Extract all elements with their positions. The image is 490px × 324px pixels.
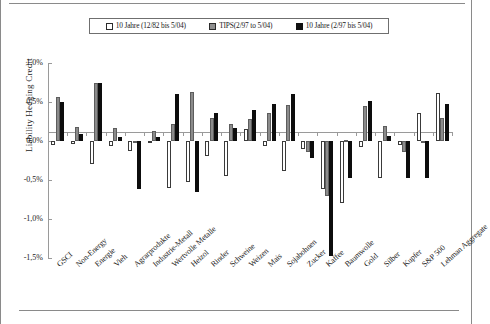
bar <box>291 94 295 141</box>
y-tick-text: 0,0% <box>1 137 48 145</box>
bar <box>378 141 382 178</box>
bar <box>252 110 256 141</box>
x-tick-mark <box>106 132 107 136</box>
bar-group <box>340 63 353 258</box>
y-tick-text: -1,0% <box>1 215 48 223</box>
bar <box>109 141 113 146</box>
legend-swatch-white <box>106 23 113 30</box>
bar <box>214 113 218 141</box>
legend-label: 10 Jahre (2/97 bis 5/04) <box>306 22 373 29</box>
y-tick-text: -1,5% <box>1 254 48 262</box>
x-tick-mark <box>317 132 318 136</box>
y-tick-label-4: -1,0% <box>1 215 48 223</box>
bar-group <box>71 63 84 258</box>
bar-group <box>282 63 295 258</box>
bar <box>98 83 102 142</box>
bar <box>348 141 352 178</box>
bar <box>406 141 410 178</box>
x-tick-mark <box>202 132 203 136</box>
x-tick-mark <box>67 132 68 136</box>
bar <box>368 101 372 141</box>
legend-label: TIPS(2/97 to 5/04) <box>219 22 272 29</box>
y-tick-label-1: 0,5% <box>1 98 48 106</box>
bar <box>71 141 75 144</box>
bar-group <box>90 63 103 258</box>
y-tick-text: 0,5% <box>1 98 48 106</box>
bar <box>79 134 83 141</box>
bar <box>272 104 276 141</box>
bar <box>186 141 190 182</box>
bar-group <box>244 63 257 258</box>
bar-group <box>167 63 180 258</box>
legend-item-0: 10 Jahre (12/82 bis 5/04) <box>106 22 186 29</box>
bar <box>156 137 160 141</box>
x-tick-mark <box>394 132 395 136</box>
bar-group <box>186 63 199 258</box>
x-tick-mark <box>163 132 164 136</box>
bar <box>60 102 64 141</box>
y-tick-text: 1,0% <box>1 59 48 67</box>
bar <box>282 141 286 171</box>
bar <box>118 137 122 141</box>
bar <box>175 94 179 141</box>
bottom-rule <box>19 310 459 311</box>
bar-group <box>301 63 314 258</box>
bar-group <box>128 63 141 258</box>
x-tick-mark <box>279 132 280 136</box>
legend-swatch-gray <box>209 23 216 30</box>
x-tick-mark <box>375 132 376 136</box>
bar <box>387 136 391 141</box>
bar-group <box>321 63 334 258</box>
x-tick-mark <box>452 132 453 136</box>
legend-label: 10 Jahre (12/82 bis 5/04) <box>116 22 186 29</box>
chart-legend: 10 Jahre (12/82 bis 5/04)TIPS(2/97 to 5/… <box>89 18 389 34</box>
bar-group <box>359 63 372 258</box>
bar <box>425 141 429 178</box>
bar <box>310 141 314 158</box>
bar <box>90 141 94 164</box>
y-tick-label-3: -0,5% <box>1 176 48 184</box>
x-tick-mark <box>433 132 434 136</box>
legend-item-1: TIPS(2/97 to 5/04) <box>209 22 272 29</box>
x-tick-mark <box>298 132 299 136</box>
x-tick-mark <box>414 132 415 136</box>
bar-group <box>148 63 161 258</box>
bar <box>224 141 228 176</box>
bar-group <box>109 63 122 258</box>
bar <box>137 141 141 189</box>
bar <box>445 104 449 141</box>
legend-item-2: 10 Jahre (2/97 bis 5/04) <box>296 22 373 29</box>
y-tick-label-5: -1,5% <box>1 254 48 262</box>
bar <box>329 141 333 256</box>
bar <box>190 92 194 141</box>
bar <box>417 113 421 141</box>
x-tick-mark <box>260 132 261 136</box>
y-tick-label-2: 0,0% <box>1 137 48 145</box>
x-tick-mark <box>125 132 126 136</box>
bar <box>195 141 199 192</box>
bar-group <box>378 63 391 258</box>
bar <box>167 141 171 188</box>
top-rule <box>9 3 465 4</box>
x-tick-mark <box>240 132 241 136</box>
x-tick-mark <box>86 132 87 136</box>
bar-group <box>205 63 218 258</box>
y-tick-label-0: 1,0% <box>1 59 48 67</box>
bar-group <box>51 63 64 258</box>
bar <box>233 128 237 141</box>
bar-group <box>417 63 430 258</box>
bar-group <box>224 63 237 258</box>
bar <box>263 141 267 146</box>
x-tick-mark <box>144 132 145 136</box>
bar <box>359 141 363 147</box>
bars-container <box>48 63 452 258</box>
y-tick-mark-5 <box>48 258 52 259</box>
bar-group <box>263 63 276 258</box>
bar-group <box>436 63 449 258</box>
bar <box>51 141 55 145</box>
x-tick-mark <box>356 132 357 136</box>
y-tick-text: -0,5% <box>1 176 48 184</box>
bar <box>148 141 152 143</box>
bar-group <box>398 63 411 258</box>
